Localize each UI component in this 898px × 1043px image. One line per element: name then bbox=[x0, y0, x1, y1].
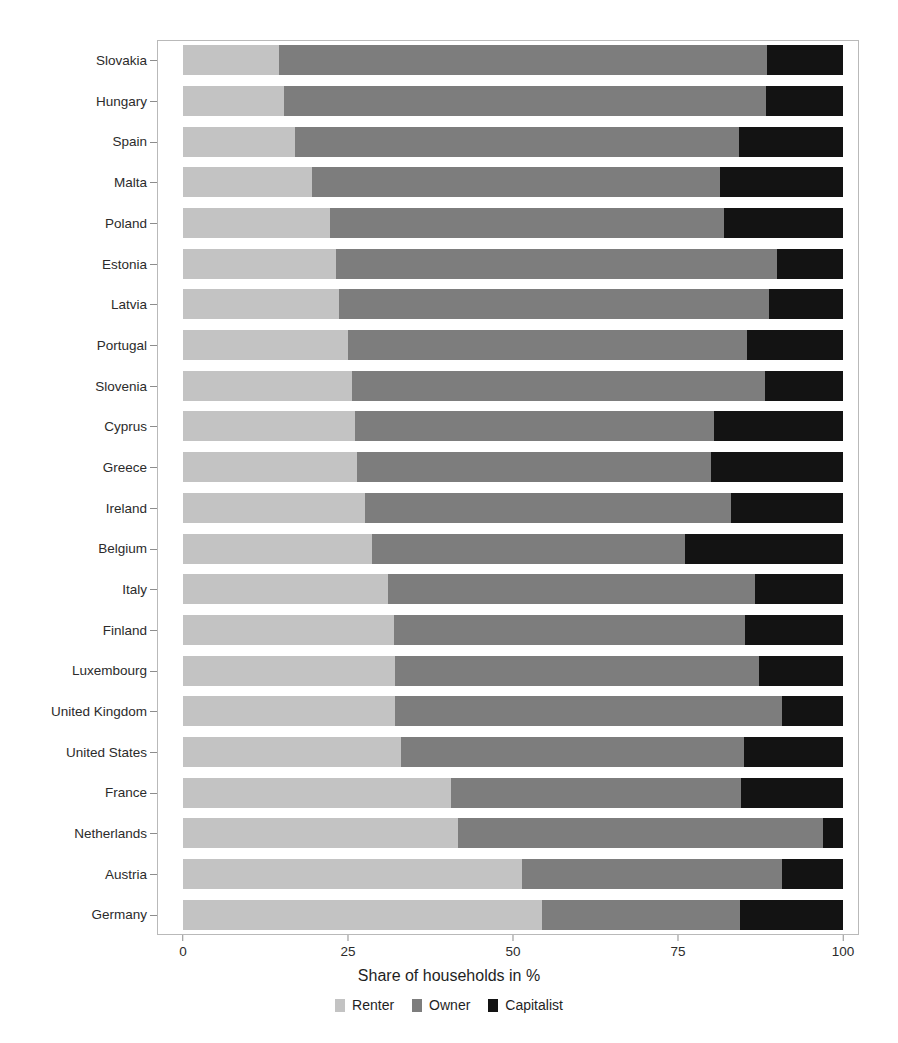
bar-segment-renter[interactable] bbox=[183, 615, 394, 645]
bar-segment-owner[interactable] bbox=[542, 900, 740, 930]
bar-segment-owner[interactable] bbox=[330, 208, 725, 238]
bar-row bbox=[157, 249, 859, 279]
bar-segment-capitalist[interactable] bbox=[767, 45, 843, 75]
y-axis-label: United Kingdom bbox=[51, 703, 157, 721]
bar-segment-renter[interactable] bbox=[183, 330, 348, 360]
y-axis-tick-finland: Finland bbox=[103, 621, 157, 639]
bar-segment-owner[interactable] bbox=[295, 127, 739, 157]
bar-segment-owner[interactable] bbox=[312, 167, 720, 197]
bar-segment-capitalist[interactable] bbox=[724, 208, 843, 238]
capitalist-swatch bbox=[488, 999, 498, 1012]
bar-track bbox=[183, 737, 843, 767]
y-tick-mark bbox=[150, 467, 157, 468]
legend-item-owner[interactable]: Owner bbox=[412, 997, 470, 1013]
bar-segment-renter[interactable] bbox=[183, 289, 339, 319]
bar-segment-capitalist[interactable] bbox=[741, 778, 843, 808]
stacked-bar-chart: SlovakiaHungarySpainMaltaPolandEstoniaLa… bbox=[0, 0, 898, 1043]
bar-segment-renter[interactable] bbox=[183, 778, 451, 808]
bar-segment-capitalist[interactable] bbox=[740, 900, 843, 930]
bar-segment-renter[interactable] bbox=[183, 127, 295, 157]
x-axis-tick-100: 100 bbox=[832, 935, 855, 959]
y-tick-mark bbox=[150, 101, 157, 102]
legend-item-renter[interactable]: Renter bbox=[335, 997, 394, 1013]
bar-segment-owner[interactable] bbox=[357, 452, 711, 482]
bar-segment-capitalist[interactable] bbox=[782, 696, 843, 726]
bar-segment-renter[interactable] bbox=[183, 574, 388, 604]
bar-row bbox=[157, 45, 859, 75]
bar-segment-owner[interactable] bbox=[355, 411, 714, 441]
bar-segment-capitalist[interactable] bbox=[731, 493, 843, 523]
x-axis-label: 0 bbox=[179, 944, 187, 959]
bar-segment-renter[interactable] bbox=[183, 452, 357, 482]
bar-segment-renter[interactable] bbox=[183, 859, 522, 889]
bar-segment-owner[interactable] bbox=[458, 818, 823, 848]
y-axis-label: Greece bbox=[103, 459, 157, 477]
bar-segment-capitalist[interactable] bbox=[755, 574, 843, 604]
bar-segment-renter[interactable] bbox=[183, 656, 395, 686]
y-axis-tick-hungary: Hungary bbox=[96, 92, 157, 110]
bar-segment-renter[interactable] bbox=[183, 86, 284, 116]
bar-row bbox=[157, 696, 859, 726]
bar-segment-renter[interactable] bbox=[183, 493, 365, 523]
bar-segment-capitalist[interactable] bbox=[823, 818, 843, 848]
bar-segment-renter[interactable] bbox=[183, 534, 372, 564]
bar-segment-owner[interactable] bbox=[395, 696, 782, 726]
bar-segment-renter[interactable] bbox=[183, 900, 542, 930]
bar-segment-renter[interactable] bbox=[183, 167, 312, 197]
bar-track bbox=[183, 818, 843, 848]
bar-row bbox=[157, 127, 859, 157]
bar-segment-capitalist[interactable] bbox=[720, 167, 843, 197]
bar-segment-capitalist[interactable] bbox=[769, 289, 843, 319]
bar-segment-owner[interactable] bbox=[279, 45, 767, 75]
bar-segment-renter[interactable] bbox=[183, 696, 395, 726]
bar-segment-capitalist[interactable] bbox=[766, 86, 843, 116]
bar-segment-renter[interactable] bbox=[183, 818, 458, 848]
bar-segment-renter[interactable] bbox=[183, 737, 401, 767]
bar-segment-capitalist[interactable] bbox=[782, 859, 843, 889]
bar-segment-renter[interactable] bbox=[183, 208, 330, 238]
bar-segment-renter[interactable] bbox=[183, 371, 352, 401]
bar-segment-owner[interactable] bbox=[394, 615, 745, 645]
legend-item-capitalist[interactable]: Capitalist bbox=[488, 997, 563, 1013]
y-axis-tick-slovenia: Slovenia bbox=[95, 377, 157, 395]
y-tick-mark bbox=[150, 752, 157, 753]
bar-segment-owner[interactable] bbox=[372, 534, 684, 564]
bar-segment-capitalist[interactable] bbox=[765, 371, 843, 401]
bar-segment-owner[interactable] bbox=[352, 371, 765, 401]
bar-segment-capitalist[interactable] bbox=[747, 330, 843, 360]
bar-segment-capitalist[interactable] bbox=[711, 452, 843, 482]
bar-track bbox=[183, 574, 843, 604]
bar-segment-owner[interactable] bbox=[522, 859, 782, 889]
bar-segment-owner[interactable] bbox=[451, 778, 741, 808]
bar-segment-owner[interactable] bbox=[388, 574, 755, 604]
bar-row bbox=[157, 167, 859, 197]
bar-segment-capitalist[interactable] bbox=[739, 127, 843, 157]
bar-segment-owner[interactable] bbox=[401, 737, 744, 767]
x-tick-mark bbox=[348, 935, 349, 941]
bar-segment-renter[interactable] bbox=[183, 45, 279, 75]
bar-segment-capitalist[interactable] bbox=[777, 249, 843, 279]
y-axis-label: Luxembourg bbox=[72, 662, 157, 680]
bar-segment-owner[interactable] bbox=[348, 330, 747, 360]
y-axis-tick-portugal: Portugal bbox=[97, 336, 157, 354]
x-axis-tick-25: 25 bbox=[340, 935, 355, 959]
bar-segment-capitalist[interactable] bbox=[685, 534, 843, 564]
bar-segment-owner[interactable] bbox=[365, 493, 731, 523]
y-tick-mark bbox=[150, 426, 157, 427]
y-tick-mark bbox=[150, 182, 157, 183]
bars-layer bbox=[157, 40, 859, 935]
bar-segment-owner[interactable] bbox=[395, 656, 759, 686]
bar-track bbox=[183, 778, 843, 808]
y-tick-mark bbox=[150, 142, 157, 143]
bar-segment-capitalist[interactable] bbox=[744, 737, 843, 767]
bar-segment-capitalist[interactable] bbox=[714, 411, 843, 441]
y-tick-mark bbox=[150, 793, 157, 794]
bar-segment-renter[interactable] bbox=[183, 249, 336, 279]
bar-segment-owner[interactable] bbox=[339, 289, 769, 319]
bar-segment-renter[interactable] bbox=[183, 411, 355, 441]
bar-segment-capitalist[interactable] bbox=[745, 615, 843, 645]
bar-segment-capitalist[interactable] bbox=[759, 656, 843, 686]
bar-segment-owner[interactable] bbox=[284, 86, 766, 116]
y-tick-mark bbox=[150, 589, 157, 590]
bar-segment-owner[interactable] bbox=[336, 249, 777, 279]
